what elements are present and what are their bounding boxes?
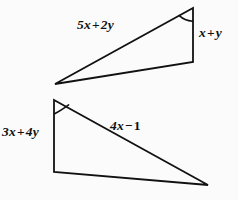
term-b: 4y (26, 124, 39, 139)
lower-triangle-short-side-label: 3x+4y (2, 124, 39, 140)
term-b: 1 (134, 118, 141, 133)
operator: + (91, 17, 101, 32)
upper-triangle-long-side-label: 5x+2y (77, 17, 114, 33)
upper-triangle (55, 8, 193, 84)
operator: + (16, 124, 26, 139)
upper-triangle-outline (55, 8, 193, 84)
lower-triangle-outline (54, 100, 208, 185)
term-a: x (199, 25, 206, 40)
lower-triangle (54, 100, 208, 185)
term-a: 3x (2, 124, 16, 139)
term-b: y (216, 25, 222, 40)
term-a: 5x (77, 17, 91, 32)
term-b: 2y (101, 17, 114, 32)
upper-triangle-short-side-label: x+y (199, 25, 222, 41)
operator: − (124, 118, 134, 133)
term-a: 4x (110, 118, 124, 133)
lower-triangle-angle-arc-icon (55, 105, 69, 114)
lower-triangle-long-side-label: 4x−1 (110, 118, 141, 134)
upper-triangle-angle-arc-icon (179, 16, 192, 22)
operator: + (206, 25, 216, 40)
geometry-diagram-canvas: 5x+2y x+y 3x+4y 4x−1 (0, 0, 238, 200)
